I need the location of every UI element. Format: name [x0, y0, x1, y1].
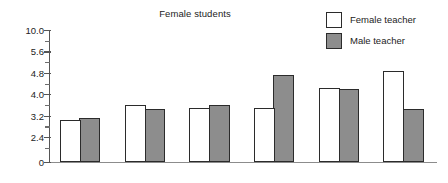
y-tick-minor-5	[45, 126, 50, 127]
x-axis-line	[49, 162, 437, 163]
y-tick-2-4	[44, 137, 51, 138]
y-tick-minor-4	[45, 105, 50, 106]
y-axis-label-3: 4.0	[31, 89, 44, 100]
y-tick-5-6	[44, 51, 51, 52]
bar-male-teacher-group-4	[273, 75, 294, 162]
y-axis-line	[49, 30, 50, 163]
legend-item-female-teacher: Female teacher	[326, 9, 448, 30]
y-tick-minor-3	[45, 84, 50, 85]
bar-male-teacher-group-3	[209, 105, 230, 162]
y-tick-0	[44, 162, 51, 163]
y-tick-3-2	[44, 116, 51, 117]
bar-male-teacher-group-5	[338, 89, 359, 161]
y-axis-label-1: 5.6	[31, 46, 44, 57]
y-axis-label-6: 0	[39, 156, 44, 167]
bar-female-teacher-group-3	[189, 108, 210, 162]
bar-male-teacher-group-1	[79, 118, 100, 162]
y-tick-minor-2	[45, 62, 50, 63]
y-axis-labels: 10.0 5.6 4.8 4.0 3.2 2.4 0	[1, 30, 44, 163]
bar-female-teacher-group-4	[254, 108, 275, 162]
legend-label-female-teacher: Female teacher	[350, 15, 416, 25]
y-tick-minor-1	[45, 41, 50, 42]
chart-title-text: Female students	[159, 8, 231, 19]
bar-male-teacher-group-6	[403, 109, 424, 162]
white-square-icon	[326, 12, 342, 28]
y-axis-label-2: 4.8	[31, 67, 44, 78]
y-axis-label-0: 10.0	[26, 25, 45, 36]
y-tick-minor-6	[45, 148, 50, 149]
y-axis-label-5: 2.4	[31, 132, 44, 143]
bar-female-teacher-group-5	[319, 88, 340, 162]
y-axis-label-4: 3.2	[31, 110, 44, 121]
bar-female-teacher-group-1	[60, 120, 81, 162]
chart-figure: Female students Female teacher Male teac…	[0, 0, 448, 183]
y-tick-10-0	[44, 30, 51, 31]
y-tick-4-0	[44, 94, 51, 95]
y-tick-4-8	[44, 73, 51, 74]
bar-male-teacher-group-2	[144, 109, 165, 162]
plot-area: 10.0 5.6 4.8 4.0 3.2 2.4 0	[49, 30, 437, 163]
bar-female-teacher-group-2	[125, 105, 146, 162]
bar-female-teacher-group-6	[383, 71, 404, 161]
